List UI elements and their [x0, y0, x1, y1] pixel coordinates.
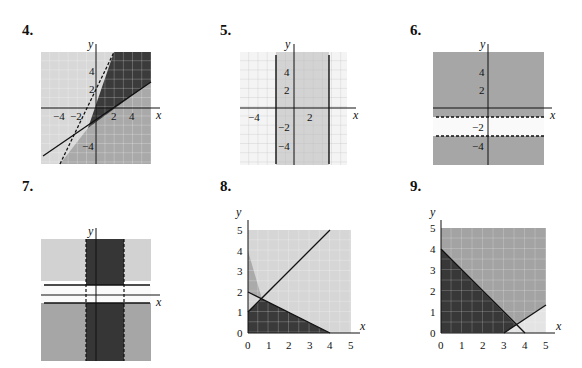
tick: 2: [430, 285, 436, 297]
tick: 1: [430, 306, 436, 318]
y-axis-label: y: [429, 205, 436, 219]
tick: 2: [480, 339, 486, 351]
tick: 5: [430, 222, 436, 234]
tick: 3: [501, 339, 507, 351]
tick: 3: [430, 264, 436, 276]
tick: 4: [430, 243, 436, 255]
tick: 1: [459, 339, 465, 351]
tick: 0: [430, 327, 436, 339]
graph-9: y x 0 1 2 3 4 5 0 1 2 3 4 5: [0, 0, 582, 368]
x-axis-label: x: [555, 319, 562, 333]
tick: 0: [438, 339, 444, 351]
tick: 4: [522, 339, 528, 351]
tick: 5: [543, 339, 549, 351]
